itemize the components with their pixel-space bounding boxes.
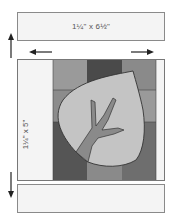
- arrow-right-icon: [131, 49, 154, 55]
- arrows-layer: [0, 0, 170, 223]
- arrow-down-icon: [8, 172, 14, 198]
- arrow-up-icon: [8, 33, 14, 58]
- arrow-left-icon: [29, 49, 52, 55]
